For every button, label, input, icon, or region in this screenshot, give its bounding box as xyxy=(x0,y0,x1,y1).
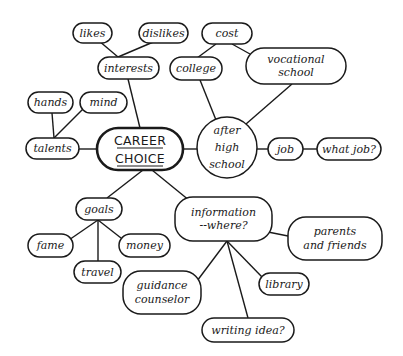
node-guidance: guidancecounselor xyxy=(123,271,201,314)
connector-line xyxy=(107,170,143,198)
connector-line xyxy=(200,80,216,120)
node-talents: talents xyxy=(26,138,79,159)
node-writing: writing idea? xyxy=(202,318,294,342)
node-label: counselor xyxy=(135,293,190,306)
node-label: --where? xyxy=(199,219,247,232)
node-label: mind xyxy=(89,96,117,109)
node-interests: interests xyxy=(98,57,159,79)
connector-line xyxy=(52,113,54,138)
node-money: money xyxy=(119,234,170,257)
node-label: and friends xyxy=(303,239,367,252)
node-parents: parentsand friends xyxy=(288,217,382,260)
node-label: school xyxy=(209,158,245,171)
node-label: travel xyxy=(81,266,114,279)
node-label: information xyxy=(191,206,256,219)
node-label: likes xyxy=(80,27,106,40)
node-label: dislikes xyxy=(142,27,184,40)
node-library: library xyxy=(259,273,309,295)
node-information: information--where? xyxy=(175,197,272,241)
connector-line xyxy=(268,232,288,236)
node-dislikes: dislikes xyxy=(139,23,188,43)
node-travel: travel xyxy=(74,261,121,283)
node-label: school xyxy=(278,66,314,79)
node-afterhs: afterhighschool xyxy=(197,117,257,178)
node-label: job xyxy=(274,143,294,156)
node-likes: likes xyxy=(73,23,112,43)
node-label: fame xyxy=(36,239,65,252)
node-label: parents xyxy=(314,225,357,238)
node-label: goals xyxy=(84,203,114,216)
central-node-line-1: CAREER xyxy=(114,133,166,148)
connector-line xyxy=(128,79,140,128)
node-label: high xyxy=(215,141,240,154)
node-vocational: vocationalschool xyxy=(246,48,346,84)
central-node-career-choice: CAREER CHOICE xyxy=(97,128,183,170)
node-cost: cost xyxy=(202,23,252,44)
node-job: job xyxy=(268,138,303,160)
mind-map-canvas: likesdislikesinterestshandsmindtalentsco… xyxy=(0,0,403,356)
node-label: guidance xyxy=(137,279,188,292)
central-node-line-2: CHOICE xyxy=(115,151,165,166)
connector-line xyxy=(232,44,250,54)
node-mind: mind xyxy=(80,92,127,113)
node-label: cost xyxy=(216,27,239,40)
node-fame: fame xyxy=(28,234,73,257)
node-hands: hands xyxy=(28,92,73,113)
connector-line xyxy=(197,241,227,281)
node-label: what job? xyxy=(322,143,376,156)
node-label: vocational xyxy=(267,53,325,66)
node-label: hands xyxy=(34,96,68,109)
idea-nodes: likesdislikesinterestshandsmindtalentsco… xyxy=(26,23,382,342)
connector-line xyxy=(246,84,292,124)
node-label: college xyxy=(176,62,216,75)
node-label: interests xyxy=(104,62,153,75)
node-label: after xyxy=(214,124,242,137)
node-label: writing idea? xyxy=(211,324,284,337)
connector-line xyxy=(152,170,190,201)
connector-line xyxy=(197,44,216,58)
node-label: talents xyxy=(33,142,72,155)
node-college: college xyxy=(170,57,222,80)
node-label: money xyxy=(126,239,164,252)
node-whatjob: what job? xyxy=(317,138,381,160)
node-label: library xyxy=(265,278,303,291)
node-goals: goals xyxy=(76,198,122,220)
connector-line xyxy=(98,220,121,238)
